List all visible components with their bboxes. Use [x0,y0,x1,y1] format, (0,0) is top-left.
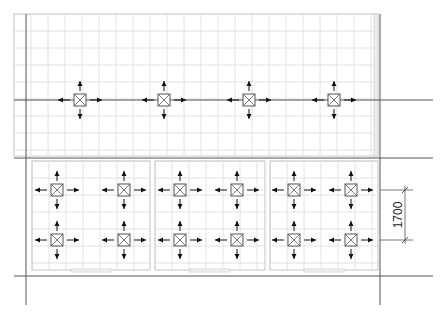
drawing-canvas: 1700 [0,0,445,313]
room-walls [14,14,378,272]
arrow-head [329,238,334,243]
square-diffuser-icon [102,171,146,209]
arrow-head [215,188,220,193]
arrow-head [35,238,40,243]
arrow-head [141,188,146,193]
door-threshold [304,269,344,272]
arrow-head [55,221,60,226]
arrow-head [74,238,79,243]
arrow-head [74,188,79,193]
arrow-head [329,188,334,193]
arrow-head [349,254,354,259]
arrow-head [292,221,297,226]
square-diffuser-icon [35,221,79,259]
arrow-head [272,188,277,193]
right-wall [374,14,378,156]
arrow-head [122,204,127,209]
arrow-head [122,221,127,226]
arrow-head [292,171,297,176]
arrow-head [178,254,183,259]
square-diffuser-icon [272,221,316,259]
square-diffuser-icon [35,171,79,209]
arrow-head [178,204,183,209]
arrow-head [235,204,240,209]
arrow-head [58,98,63,103]
arrow-head [55,204,60,209]
arrow-head [215,238,220,243]
arrow-head [158,188,163,193]
diffuser-fixtures [35,81,373,259]
square-diffuser-icon [102,221,146,259]
arrow-head [197,188,202,193]
arrow-head [312,98,317,103]
arrow-head [55,254,60,259]
square-diffuser-icon [329,171,373,209]
arrow-head [55,171,60,176]
room-outline [32,161,150,270]
arrow-head [349,171,354,176]
arrow-head [178,221,183,226]
arrow-head [227,98,232,103]
square-diffuser-icon [158,221,202,259]
room-outline [270,161,378,270]
arrow-head [235,221,240,226]
arrow-head [122,254,127,259]
square-diffuser-icon [142,81,186,119]
square-diffuser-icon [215,221,259,259]
upper-zone-outline [14,14,378,156]
square-diffuser-icon [227,81,271,119]
dimension-label: 1700 [391,201,405,228]
square-diffuser-icon [329,221,373,259]
arrow-head [35,188,40,193]
arrow-head [102,238,107,243]
dimension-annotation: 1700 [380,186,413,244]
square-diffuser-icon [158,171,202,209]
arrow-head [141,238,146,243]
arrow-head [122,171,127,176]
arrow-head [102,188,107,193]
arrow-head [272,238,277,243]
arrow-head [178,171,183,176]
door-threshold [71,269,111,272]
door-threshold [190,269,230,272]
square-diffuser-icon [312,81,356,119]
arrow-head [235,254,240,259]
arrow-head [349,204,354,209]
arrow-head [142,98,147,103]
arrow-head [158,238,163,243]
arrow-head [292,204,297,209]
arrow-head [349,221,354,226]
grid-lines [14,14,378,270]
arrow-head [292,254,297,259]
arrow-head [311,238,316,243]
arrow-head [311,188,316,193]
arrow-head [197,238,202,243]
floor-plan: 1700 [0,0,445,313]
square-diffuser-icon [215,171,259,209]
square-diffuser-icon [272,171,316,209]
arrow-head [235,171,240,176]
